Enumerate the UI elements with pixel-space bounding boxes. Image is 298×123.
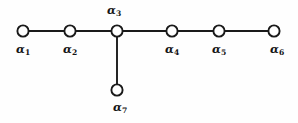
node-a3: [111, 25, 122, 36]
node-a7: [111, 84, 122, 95]
node-label-a3: α3: [107, 5, 121, 17]
node-label-a5: α5: [212, 44, 226, 56]
node-a1: [17, 25, 28, 36]
dynkin-diagram-canvas: [0, 0, 298, 123]
node-a6: [268, 25, 279, 36]
node-label-a1: α1: [16, 44, 30, 56]
node-a4: [166, 25, 177, 36]
node-label-a4: α4: [165, 44, 179, 56]
node-label-a7: α7: [113, 102, 127, 114]
dynkin-diagram: α1 α2 α3 α4 α5 α6 α7: [0, 0, 298, 123]
node-a2: [64, 25, 75, 36]
node-label-a6: α6: [270, 44, 284, 56]
node-label-a2: α2: [63, 44, 77, 56]
edge-group: [29, 31, 269, 84]
node-group: [17, 25, 279, 95]
node-a5: [213, 25, 224, 36]
